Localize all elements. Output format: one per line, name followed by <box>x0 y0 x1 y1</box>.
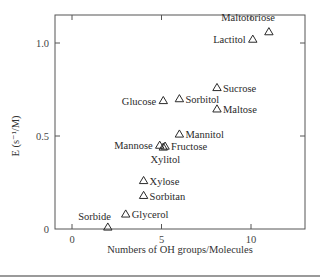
axis-ticks: 051000.51.0 <box>36 15 305 245</box>
triangle-marker-icon <box>265 28 273 35</box>
data-point-sorbide: Sorbide <box>78 211 112 230</box>
point-label: Sorbitan <box>150 191 186 202</box>
y-tick-label: 0 <box>44 224 49 235</box>
triangle-marker-icon <box>175 95 183 102</box>
x-tick-label: 0 <box>69 234 74 245</box>
point-label: Xylitol <box>150 154 180 165</box>
point-label: Glucose <box>122 96 157 107</box>
data-point-glycerol: Glycerol <box>122 209 169 220</box>
data-point-mannose: Mannose <box>114 140 164 151</box>
triangle-marker-icon <box>249 35 257 42</box>
data-point-glucose: Glucose <box>122 96 168 107</box>
point-label: Maltose <box>223 104 257 115</box>
data-point-sucrose: Sucrose <box>213 83 257 94</box>
triangle-marker-icon <box>175 130 183 137</box>
triangle-marker-icon <box>213 83 221 90</box>
point-label: Glycerol <box>132 209 169 220</box>
data-point-sorbitan: Sorbitan <box>139 191 186 202</box>
triangle-marker-icon <box>159 96 167 103</box>
y-tick-label: 0.5 <box>36 131 49 142</box>
triangle-marker-icon <box>213 105 221 112</box>
data-point-lactitol: Lactitol <box>213 34 257 45</box>
data-point-maltose: Maltose <box>213 104 257 115</box>
point-label: Lactitol <box>213 34 246 45</box>
triangle-marker-icon <box>139 176 147 183</box>
x-axis-title: Numbers of OH groups/Molecules <box>107 244 253 255</box>
y-axis-title: E (s⁻¹/M) <box>10 115 22 157</box>
point-label: Mannitol <box>185 129 224 140</box>
point-label: Xylose <box>150 176 180 187</box>
y-tick-label: 1.0 <box>36 38 49 49</box>
triangle-marker-icon <box>122 210 130 217</box>
scatter-chart: 051000.51.0 MaltotorioseLactitolSucroseG… <box>0 0 320 277</box>
point-label: Sucrose <box>223 83 257 94</box>
point-label: Sorbide <box>78 211 111 222</box>
point-label: Mannose <box>114 140 153 151</box>
data-point-mannitol: Mannitol <box>175 129 224 140</box>
data-point-xylose: Xylose <box>139 176 179 187</box>
point-label: Fructose <box>171 141 208 152</box>
point-label: Sorbitol <box>185 94 219 105</box>
data-point-sorbitol: Sorbitol <box>175 94 219 105</box>
data-points: MaltotorioseLactitolSucroseGlucoseSorbit… <box>78 12 275 230</box>
point-label: Maltotoriose <box>221 12 275 23</box>
triangle-marker-icon <box>139 191 147 198</box>
data-point-maltotoriose: Maltotoriose <box>221 12 275 35</box>
